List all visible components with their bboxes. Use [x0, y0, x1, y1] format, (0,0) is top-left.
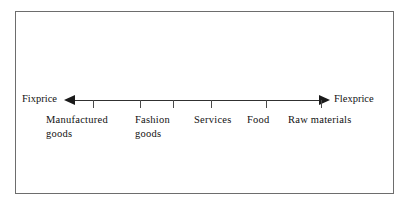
axis-endpoint-label-flexprice: Flexprice — [334, 93, 374, 105]
axis-tick — [140, 100, 141, 108]
category-label-raw-materials: Raw materials — [288, 113, 352, 127]
axis-tick — [173, 100, 174, 108]
figure-border-frame: Fixprice Flexprice Manufactured goods Fa… — [15, 11, 394, 194]
axis-line — [74, 100, 321, 101]
category-label-services: Services — [194, 113, 232, 127]
axis-endpoint-label-fixprice: Fixprice — [22, 93, 57, 105]
axis-tick — [321, 100, 322, 108]
axis-tick — [93, 100, 94, 108]
category-label-food: Food — [247, 113, 270, 127]
axis-tick — [211, 100, 212, 108]
category-label-fashion-goods: Fashion goods — [135, 113, 170, 140]
continuum-axis-area: Fixprice Flexprice Manufactured goods Fa… — [16, 12, 393, 193]
arrow-left-icon — [64, 95, 75, 105]
axis-tick — [266, 100, 267, 108]
category-label-manufactured-goods: Manufactured goods — [46, 113, 108, 140]
